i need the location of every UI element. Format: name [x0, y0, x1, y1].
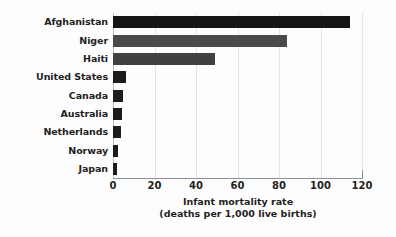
category-label: Norway	[0, 146, 108, 156]
bar-row	[113, 16, 362, 28]
bar	[113, 35, 287, 47]
bar-rows	[113, 13, 362, 178]
category-label: Afghanistan	[0, 17, 108, 27]
bar	[113, 126, 121, 138]
bar	[113, 90, 123, 102]
x-axis-tick-labels: 020406080100120	[0, 181, 396, 195]
x-tick-label: 40	[189, 181, 203, 191]
category-label: Haiti	[0, 54, 108, 64]
x-tick-label: 100	[310, 181, 331, 191]
bar-row	[113, 35, 362, 47]
bar-row	[113, 163, 362, 175]
x-axis-title-block: Infant mortality rate (deaths per 1,000 …	[113, 196, 363, 220]
category-label: Australia	[0, 109, 108, 119]
bar-row	[113, 90, 362, 102]
plot-area	[113, 13, 362, 178]
category-label: Niger	[0, 36, 108, 46]
category-label: Netherlands	[0, 127, 108, 137]
axis-end-cap	[362, 170, 363, 179]
bar	[113, 108, 122, 120]
category-axis-labels: AfghanistanNigerHaitiUnited StatesCanada…	[0, 13, 108, 178]
bar	[113, 145, 118, 157]
x-tick-label: 20	[148, 181, 162, 191]
bar-row	[113, 53, 362, 65]
x-axis-title: Infant mortality rate	[113, 196, 363, 208]
category-label: Japan	[0, 164, 108, 174]
x-tick-label: 60	[231, 181, 245, 191]
category-label: Canada	[0, 91, 108, 101]
x-tick-label: 80	[272, 181, 286, 191]
bar-row	[113, 108, 362, 120]
bar	[113, 53, 215, 65]
category-label: United States	[0, 72, 108, 82]
bar-row	[113, 126, 362, 138]
bar	[113, 71, 126, 83]
bar-row	[113, 71, 362, 83]
x-tick-label: 120	[352, 181, 373, 191]
x-tick-label: 0	[110, 181, 117, 191]
bar	[113, 16, 350, 28]
bar	[113, 163, 117, 175]
x-axis-line	[113, 178, 363, 179]
x-axis-subtitle: (deaths per 1,000 live births)	[113, 208, 363, 220]
infant-mortality-bar-chart: AfghanistanNigerHaitiUnited StatesCanada…	[0, 0, 396, 237]
gridline-120	[362, 13, 363, 178]
bar-row	[113, 145, 362, 157]
